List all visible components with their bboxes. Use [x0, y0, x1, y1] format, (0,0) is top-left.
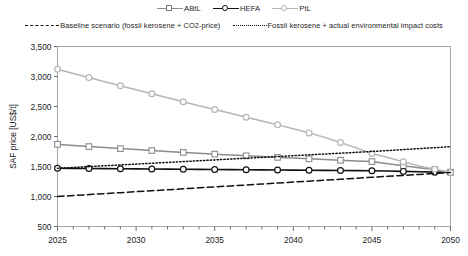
- data-point-marker: [275, 167, 281, 173]
- x-tick-label: 2045: [363, 235, 382, 245]
- data-point-marker: [212, 167, 218, 173]
- data-point-marker: [55, 66, 61, 72]
- y-tick-label: 2,000: [31, 132, 52, 142]
- data-point-marker: [118, 146, 124, 152]
- series-line: [58, 173, 451, 197]
- series-line: [58, 69, 451, 172]
- data-point-marker: [117, 83, 123, 89]
- chart-axes: [54, 47, 451, 232]
- data-point-marker: [400, 169, 406, 175]
- data-point-marker: [180, 99, 186, 105]
- legend-label-abtl: ABtL: [184, 4, 201, 13]
- chart-series: [55, 66, 454, 196]
- data-point-marker: [55, 142, 61, 148]
- data-point-marker: [306, 156, 312, 162]
- legend-key-dashed-line: [25, 21, 59, 30]
- data-point-marker: [243, 167, 249, 173]
- legend-item-baseline[interactable]: Baseline scenario (fossil kerosene + CO2…: [25, 20, 220, 30]
- y-tick-label: 3,000: [31, 72, 52, 82]
- data-point-marker: [243, 114, 249, 120]
- chart-plot-area: 3,5003,0002,5002,0001,5001,0005002025203…: [0, 0, 468, 256]
- y-tick-label: 1,500: [31, 162, 52, 172]
- data-point-marker: [306, 130, 312, 136]
- series-line: [58, 168, 451, 172]
- y-tick-label: 2,500: [31, 102, 52, 112]
- chart-legend-primary: ABtL HEFA PtL: [0, 3, 468, 13]
- chart-figure: ABtL HEFA PtL Baseline scenario (fossil …: [0, 0, 468, 256]
- legend-label-hefa: HEFA: [240, 4, 260, 13]
- x-tick-label: 2040: [284, 235, 303, 245]
- series-ptl: [55, 66, 454, 175]
- legend-item-abtl[interactable]: ABtL: [157, 3, 201, 13]
- x-tick-label: 2050: [441, 235, 460, 245]
- x-tick-label: 2030: [127, 235, 146, 245]
- data-point-marker: [149, 166, 155, 172]
- series-fossil-kerosene-actual-environmental-impact-costs: [58, 147, 451, 169]
- data-point-marker: [117, 166, 123, 172]
- data-point-marker: [275, 122, 281, 128]
- legend-key-dotted-line: [233, 21, 267, 30]
- data-point-marker: [369, 159, 375, 165]
- data-point-marker: [180, 150, 186, 156]
- data-point-marker: [338, 140, 344, 146]
- chart-axis-labels: 3,5003,0002,5002,0001,5001,0005002025203…: [8, 42, 461, 245]
- legend-item-ptl[interactable]: PtL: [272, 3, 311, 13]
- legend-key-circle-marker-light-line: [272, 4, 298, 13]
- chart-legend-secondary: Baseline scenario (fossil kerosene + CO2…: [0, 20, 468, 30]
- data-point-marker: [212, 151, 218, 157]
- series-line: [58, 147, 451, 169]
- data-point-marker: [369, 168, 375, 174]
- legend-item-fossil-env[interactable]: Fossil kerosene + actual environmental i…: [233, 20, 443, 30]
- plot-frame: [58, 47, 451, 227]
- data-point-marker: [86, 144, 92, 150]
- data-point-marker: [338, 157, 344, 163]
- legend-key-circle-marker-line: [213, 4, 239, 13]
- data-point-marker: [432, 166, 438, 172]
- series-hefa: [55, 165, 454, 175]
- legend-label-baseline: Baseline scenario (fossil kerosene + CO2…: [60, 21, 220, 30]
- data-point-marker: [149, 148, 155, 154]
- data-point-marker: [180, 166, 186, 172]
- y-tick-label: 500: [38, 222, 52, 232]
- series-baseline-scenario-fossil-kerosene-co2-price: [58, 173, 451, 197]
- legend-item-hefa[interactable]: HEFA: [213, 3, 260, 13]
- y-tick-label: 1,000: [31, 192, 52, 202]
- data-point-marker: [86, 75, 92, 81]
- legend-label-fossil-env: Fossil kerosene + actual environmental i…: [268, 21, 443, 30]
- y-tick-label: 3,500: [31, 42, 52, 52]
- data-point-marker: [149, 91, 155, 97]
- data-point-marker: [306, 167, 312, 173]
- x-tick-label: 2025: [48, 235, 67, 245]
- data-point-marker: [338, 168, 344, 174]
- data-point-marker: [400, 159, 406, 165]
- legend-label-ptl: PtL: [299, 4, 311, 13]
- y-axis-title: SAF price [US$/t]: [8, 104, 18, 169]
- legend-key-square-marker-line: [157, 4, 183, 13]
- data-point-marker: [212, 107, 218, 113]
- x-tick-label: 2035: [205, 235, 224, 245]
